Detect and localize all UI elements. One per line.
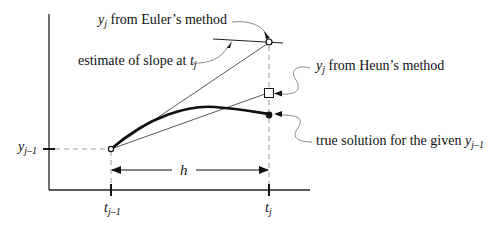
euler-label-text: from Euler’s method [107, 12, 227, 27]
start-point-marker [108, 146, 113, 151]
heun-label: yj from Heun’s method [316, 59, 444, 73]
euler-label: yj from Euler’s method [98, 13, 227, 27]
x-tick-right-sub: j [269, 206, 272, 217]
x-tick-left-sub: j–1 [108, 206, 121, 217]
x-tick-left-label: tj–1 [104, 201, 121, 215]
true-solution-label: true solution for the given yj–1 [316, 134, 484, 148]
heun-point-marker [265, 89, 274, 98]
y-tick-sub: j–1 [24, 145, 37, 156]
slope-label-sub: j [194, 59, 197, 70]
true-solution-label-sub: j–1 [471, 139, 484, 150]
true-arrowhead-icon [274, 111, 282, 117]
euler-point-marker [266, 39, 272, 45]
euler-arrowhead-icon [264, 31, 270, 39]
slope-label-text: estimate of slope at [78, 53, 190, 68]
leader-lines [192, 22, 312, 142]
true-point-marker [266, 112, 273, 119]
leader-arrowheads [227, 31, 282, 117]
x-tick-right-label: tj [265, 201, 272, 215]
axis-ticks [43, 149, 269, 196]
heun-label-text: from Heun’s method [325, 58, 444, 73]
y-tick-label: yj–1 [18, 140, 37, 154]
slope-arrowhead-icon [227, 41, 232, 48]
true-solution-label-text: true solution for the given [316, 133, 465, 148]
diagram-canvas [0, 0, 494, 226]
step-size-label: h [180, 163, 188, 178]
heun-arrowhead-icon [274, 91, 282, 97]
heun-step-line [111, 94, 265, 149]
true-solution-curve [111, 107, 269, 149]
slope-label: estimate of slope at tj [78, 54, 197, 68]
